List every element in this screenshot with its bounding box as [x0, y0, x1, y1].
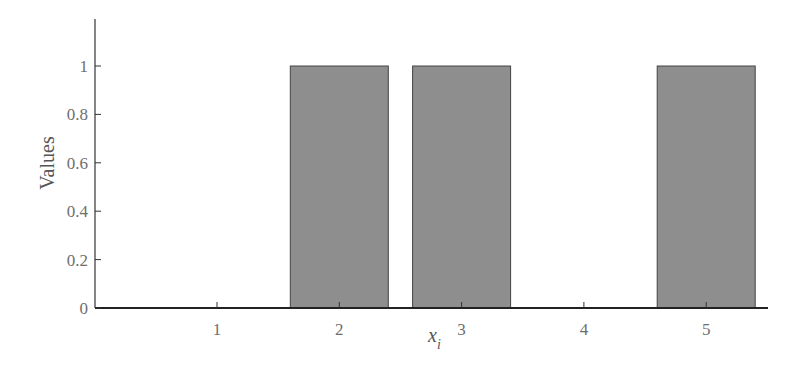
y-tick-label: 0.8	[67, 105, 88, 124]
bar-chart: 00.20.40.60.81 12345 Values xi	[0, 0, 802, 369]
y-tick-label: 0.2	[67, 251, 88, 270]
x-tick-label: 4	[580, 320, 589, 339]
bars	[290, 66, 755, 308]
bar-2	[290, 66, 388, 308]
y-tick-label: 1	[80, 57, 89, 76]
y-tick-label: 0.4	[67, 202, 89, 221]
y-tick-label: 0.6	[67, 154, 88, 173]
x-tick-label: 5	[702, 320, 711, 339]
x-tick-label: 3	[457, 320, 466, 339]
y-axis-label: Values	[36, 136, 58, 190]
bar-3	[413, 66, 511, 308]
y-tick-label: 0	[80, 299, 89, 318]
x-axis-label: xi	[427, 324, 441, 352]
y-ticks: 00.20.40.60.81	[67, 57, 101, 318]
x-tick-label: 1	[213, 320, 222, 339]
bar-5	[657, 66, 755, 308]
x-tick-label: 2	[335, 320, 344, 339]
